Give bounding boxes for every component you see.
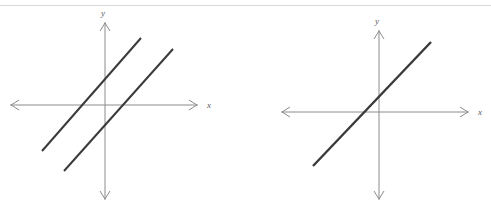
line-1 (313, 42, 431, 166)
x-axis-right (281, 107, 469, 117)
figure-root: x y x y (0, 0, 491, 212)
graph-two-parallel-lines: x y (0, 0, 245, 212)
x-axis-label-left: x (206, 100, 211, 110)
line-1 (42, 38, 141, 151)
y-axis-left (100, 22, 110, 200)
y-axis-label-left: y (100, 8, 105, 18)
x-axis-label-right: x (477, 107, 482, 117)
graph-single-line-through-origin: x y (245, 0, 491, 212)
y-axis-right (374, 30, 384, 200)
line-2 (64, 49, 173, 171)
y-axis-label-right: y (374, 16, 379, 26)
x-axis-left (10, 100, 198, 110)
